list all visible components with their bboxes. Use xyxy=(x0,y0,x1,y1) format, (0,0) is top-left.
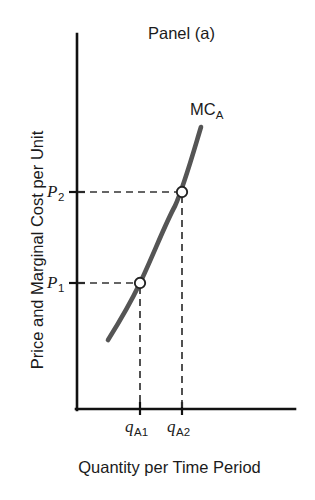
price-label-p2-symbol: P xyxy=(47,182,57,201)
price-label-p1: P1 xyxy=(47,274,64,291)
economics-figure-panel-a: Panel (a) Price and Marginal Cost per Un… xyxy=(0,0,315,500)
curve-label-subscript: A xyxy=(216,109,224,121)
quantity-label-qa2-symbol: q xyxy=(167,417,176,436)
price-label-p2-subscript: 2 xyxy=(58,191,64,203)
price-label-p1-symbol: P xyxy=(47,273,57,292)
equilibrium-marker-2 xyxy=(177,187,187,197)
price-label-p2: P2 xyxy=(47,183,64,200)
x-axis-title: Quantity per Time Period xyxy=(0,459,315,476)
quantity-label-qa1: qA1 xyxy=(125,418,148,435)
marginal-cost-curve xyxy=(108,127,201,340)
quantity-label-qa1-symbol: q xyxy=(125,417,134,436)
price-label-p1-subscript: 1 xyxy=(58,282,64,294)
quantity-label-qa2-subscript: A2 xyxy=(176,426,190,438)
quantity-label-qa1-subscript: A1 xyxy=(134,426,148,438)
y-axis-title: Price and Marginal Cost per Unit xyxy=(20,0,54,500)
curve-label-main: MC xyxy=(190,100,216,118)
curve-label-mc-a: MCA xyxy=(190,101,223,118)
quantity-label-qa2: qA2 xyxy=(167,418,190,435)
equilibrium-marker-1 xyxy=(135,278,145,288)
